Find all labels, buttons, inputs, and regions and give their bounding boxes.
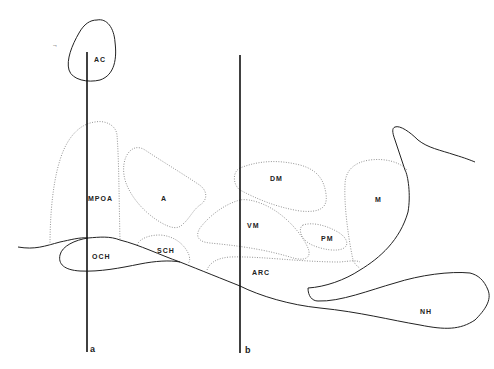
region-a-outline: [124, 148, 206, 228]
label-och: OCH: [92, 253, 111, 260]
label-cut-a: a: [90, 344, 96, 354]
ventral-surface-outline: [18, 237, 489, 328]
region-m-outline: [345, 159, 407, 268]
label-dm: DM: [270, 175, 283, 182]
label-a: A: [161, 195, 167, 202]
region-dm-outline: [234, 162, 326, 212]
region-vm-outline: [198, 200, 309, 260]
label-arc: ARC: [252, 269, 270, 276]
corner-mark: →: [52, 42, 59, 48]
label-nh: NH: [420, 308, 432, 315]
region-arc-outline: [207, 257, 360, 270]
hypothalamus-diagram: → AC MPOA A DM M VM PM OCH SCH ARC NH a …: [0, 0, 494, 369]
region-mpoa-outline: [50, 122, 120, 245]
label-cut-b: b: [245, 345, 251, 355]
median-eminence-outline: [308, 127, 475, 288]
region-ac-outline: [68, 20, 115, 81]
label-mpoa: MPOA: [88, 195, 113, 202]
label-m: M: [375, 196, 382, 203]
label-sch: SCH: [157, 247, 175, 254]
label-pm: PM: [321, 235, 334, 242]
label-ac: AC: [94, 56, 106, 63]
label-vm: VM: [247, 222, 260, 229]
